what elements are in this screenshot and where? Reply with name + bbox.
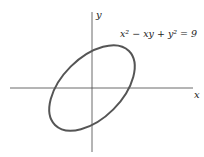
y-axis-label: y (95, 9, 102, 20)
x-axis-label: x (194, 89, 200, 100)
equation-label: x² − xy + y² = 9 (120, 28, 197, 39)
ellipse-graph-figure: y x x² − xy + y² = 9 (0, 0, 204, 157)
graph-canvas: y x x² − xy + y² = 9 (0, 0, 204, 157)
